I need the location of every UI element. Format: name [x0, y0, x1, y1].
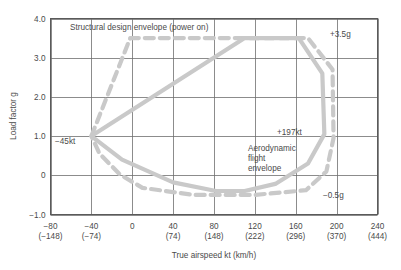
x-axis-tick-label: 240: [371, 222, 385, 231]
y-axis-tick-label: −1.0: [29, 211, 46, 220]
x-axis-tick-labels: −80(−148)−40(−74)040(74)80(148)120(222)1…: [39, 222, 388, 241]
annotation-aerodynamic-line-1: Aerodynamic: [248, 144, 296, 153]
x-axis-tick-label-kmh: (74): [166, 232, 181, 241]
y-axis-tick-label: 2.0: [34, 93, 46, 102]
x-axis-title: True airspeed kt (km/h): [172, 251, 257, 260]
annotation-minus-45-kt: −45kt: [55, 137, 76, 146]
x-axis-tick-label-kmh: (−148): [39, 232, 63, 241]
y-axis-tick-label: 1.0: [34, 132, 46, 141]
x-axis-tick-label-kmh: (444): [368, 232, 387, 241]
y-axis-title: Load factor g: [9, 92, 18, 140]
x-axis-tick-label: 120: [248, 222, 262, 231]
annotation-aerodynamic-line-2: flight: [248, 154, 266, 163]
x-axis-tick-label-kmh: (148): [204, 232, 223, 241]
x-axis-tick-label: 160: [289, 222, 303, 231]
x-axis-tick-label: 40: [169, 222, 179, 231]
load-factor-envelope-chart: 4.03.02.01.00−1.0 −80(−148)−40(−74)040(7…: [0, 0, 401, 270]
x-axis-tick-label: −80: [44, 222, 58, 231]
x-axis-tick-label: 0: [130, 222, 135, 231]
x-axis-tick-label: 200: [330, 222, 344, 231]
x-axis-tick-label-kmh: (296): [286, 232, 305, 241]
annotation-aerodynamic-line-3: envelope: [248, 164, 282, 173]
annotation-plus-197-kt: +197kt: [277, 128, 303, 137]
y-axis-tick-label: 0: [41, 171, 46, 180]
annotation-minus-0-5-g: −0.5g: [323, 191, 344, 200]
x-axis-tick-label-kmh: (370): [327, 232, 346, 241]
y-axis-tick-label: 3.0: [34, 54, 46, 63]
x-axis-tick-label: 80: [209, 222, 219, 231]
y-axis-tick-label: 4.0: [34, 15, 46, 24]
x-axis-tick-label-kmh: (−74): [82, 232, 102, 241]
x-axis-tick-label: −40: [84, 222, 98, 231]
chart-container: 4.03.02.01.00−1.0 −80(−148)−40(−74)040(7…: [0, 0, 401, 270]
annotation-structural-label: Structural design envelope (power on): [70, 23, 209, 32]
annotation-plus-3-5-g: +3.5g: [330, 30, 351, 39]
x-axis-tick-label-kmh: (222): [245, 232, 264, 241]
